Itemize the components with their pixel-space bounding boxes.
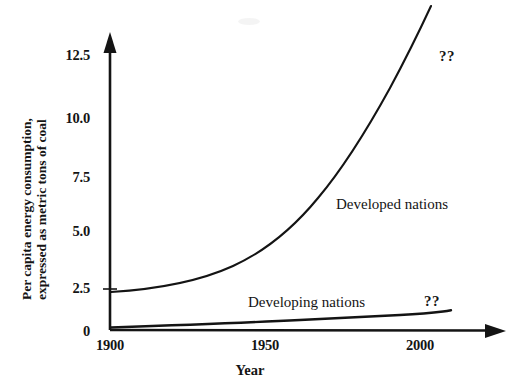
unknown-marker-developed: ??	[439, 49, 455, 64]
x-axis-title: Year	[170, 363, 330, 378]
unknown-marker-developing: ??	[424, 294, 440, 309]
series-label-developing-nations: Developing nations	[248, 295, 365, 310]
x-tick-label-1900: 1900	[78, 338, 142, 353]
x-tick-label-1950: 1950	[233, 338, 297, 353]
series-label-developed-nations: Developed nations	[336, 197, 448, 212]
series-line-developing-nations	[111, 310, 451, 327]
y-tick-label-12-5: 12.5	[34, 48, 90, 63]
y-axis	[104, 32, 117, 330]
x-tick-label-2000: 2000	[388, 338, 452, 353]
series-line-developed-nations	[111, 6, 431, 292]
y-axis-title-line-2: expressed as metric tons of coal	[35, 119, 49, 300]
energy-consumption-chart: 12.5 10.0 7.5 5.0 2.5 0 1900 1950 2000 Y…	[0, 0, 514, 384]
y-tick-label-0: 0	[34, 324, 90, 339]
y-axis-title-line-1: Per capita energy consumption,	[20, 118, 34, 300]
